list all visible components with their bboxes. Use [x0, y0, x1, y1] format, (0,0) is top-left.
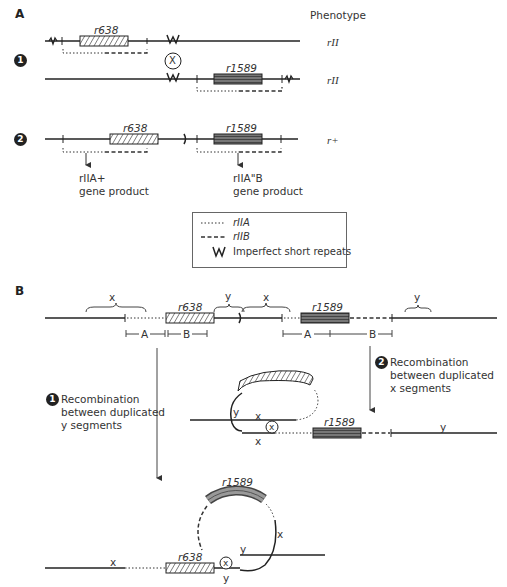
brace-y	[214, 304, 244, 312]
a2-phenotype: rII	[327, 74, 339, 86]
p2-label-y2: y	[440, 421, 446, 433]
r1589-gene-box	[214, 74, 262, 84]
segment-b1: B	[183, 328, 190, 340]
panel-b-label: B	[15, 285, 24, 297]
product1-line2: gene product	[79, 185, 149, 197]
brace-label-y1: y	[225, 290, 231, 302]
repeat-w-icon	[213, 247, 225, 256]
pathway1-text-1: Recombination	[61, 393, 140, 405]
product2-line2: gene product	[233, 185, 303, 197]
b-gene2-label: r1589	[312, 301, 343, 313]
pathway1-number: 1	[46, 393, 59, 406]
a3-phenotype: r+	[327, 134, 339, 146]
pathway1-text-3: y segments	[61, 419, 122, 431]
pathway2-text-2: between duplicated	[390, 369, 494, 381]
r638-gene-box	[110, 134, 158, 144]
brace-label-x2: x	[263, 291, 269, 303]
legend-item-riib: rIIB	[233, 231, 250, 242]
b-gene1-label: r638	[178, 301, 202, 313]
brace-x	[86, 303, 146, 312]
legend: rIIA rIIB Imperfect short repeats	[192, 212, 347, 268]
segment-a2: A	[304, 328, 311, 340]
pathway2-text-1: Recombination	[390, 356, 469, 368]
case1-number: 1	[14, 54, 27, 67]
r1589-gene-box	[313, 428, 361, 438]
a3-gene2-label: r1589	[226, 122, 257, 134]
chromosome-line-b-top	[45, 303, 497, 337]
repeat-w-icon	[167, 73, 179, 81]
r638-gene-box	[166, 563, 214, 573]
diagram-graphics	[0, 0, 507, 587]
legend-item-riia: rIIA	[233, 217, 250, 228]
a2-gene-label: r1589	[226, 62, 257, 74]
p2-label-y1: y	[233, 406, 239, 418]
p2-crossover-label: x	[269, 421, 274, 433]
product2-line1: rIIA"B	[233, 172, 263, 184]
panel-a-label: A	[15, 8, 24, 20]
segment-b2: B	[369, 328, 376, 340]
r638-gene-box	[80, 36, 128, 46]
p1-label-x2: x	[277, 528, 283, 540]
segment-a1: A	[141, 328, 148, 340]
chromosome-line-a2	[45, 73, 300, 91]
a1-gene-label: r638	[94, 24, 118, 36]
crossover-label: X	[169, 55, 176, 67]
chromosome-line-a3	[45, 134, 298, 165]
p2-gene-label: r1589	[324, 416, 355, 428]
product1-line1: rIIA+	[79, 172, 106, 184]
a3-gene1-label: r638	[123, 122, 147, 134]
repeat-w-icon	[167, 35, 179, 43]
a1-phenotype: rII	[327, 36, 339, 48]
p1-label-x1: x	[110, 556, 116, 568]
legend-item-repeats: Imperfect short repeats	[233, 246, 351, 257]
pathway2-text-3: x segments	[390, 382, 451, 394]
brace-label-y2: y	[414, 291, 420, 303]
p1-crossover-label: x	[223, 557, 228, 569]
r638-gene-box	[166, 313, 214, 323]
p1-label-y2: y	[223, 572, 229, 584]
pathway1-text-2: between duplicated	[61, 406, 165, 418]
chromosome-line-a1	[45, 35, 300, 53]
brace-y	[405, 305, 431, 312]
p1-loop-gene-label: r1589	[222, 476, 253, 488]
p2-label-x1: x	[255, 410, 261, 422]
case2-number: 2	[14, 133, 27, 146]
p1-linear-gene-label: r638	[178, 551, 202, 563]
brace-x	[242, 303, 290, 312]
r1589-gene-box	[214, 134, 262, 144]
r1589-gene-box	[301, 313, 349, 323]
pathway2-number: 2	[375, 356, 388, 369]
phenotype-header: Phenotype	[310, 9, 366, 21]
p1-label-y1: y	[240, 543, 246, 555]
brace-label-x1: x	[109, 291, 115, 303]
p2-label-x2: x	[255, 435, 261, 447]
